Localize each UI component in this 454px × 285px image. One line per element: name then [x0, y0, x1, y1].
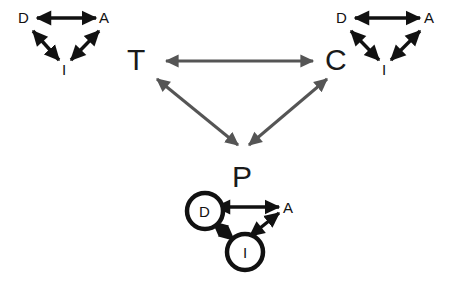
label-tr-d: D	[336, 10, 347, 25]
label-tl-a: A	[99, 10, 109, 25]
label-tr-a: A	[424, 10, 434, 25]
label-p: P	[232, 162, 252, 192]
center-triangle-edges	[157, 61, 327, 145]
edge-tl-d-i	[33, 31, 59, 60]
edge-tl-i-a	[71, 31, 99, 60]
edge-tr-d-i	[351, 31, 379, 60]
top-left-triangle-edges	[33, 18, 99, 60]
diagram-canvas: D A I D A I T C P D A I	[0, 0, 454, 285]
edge-b-i-a	[250, 213, 279, 236]
edge-p-c	[249, 79, 327, 145]
edge-tr-i-a	[391, 31, 420, 60]
label-tl-d: D	[18, 10, 29, 25]
label-c: C	[325, 45, 347, 75]
label-b-a: A	[283, 200, 293, 215]
label-tl-i: I	[62, 62, 66, 77]
label-b-i: I	[243, 245, 247, 260]
top-right-triangle-edges	[351, 18, 420, 60]
label-b-d: D	[199, 204, 210, 219]
label-tr-i: I	[382, 62, 386, 77]
label-t: T	[127, 45, 145, 75]
diagram-graphics	[0, 0, 454, 285]
edge-t-p	[157, 79, 238, 145]
